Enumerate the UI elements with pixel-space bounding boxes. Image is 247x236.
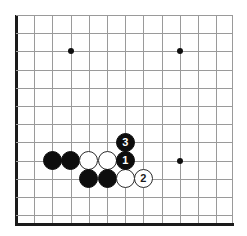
star-point-lower-right	[177, 158, 183, 164]
grid-line-horizontal-3	[16, 70, 232, 71]
stone-black-6	[79, 169, 98, 188]
grid-line-horizontal-0	[16, 15, 232, 16]
grid-line-vertical-10	[198, 15, 199, 223]
grid-line-horizontal-2	[16, 51, 232, 52]
stone-black-7	[98, 169, 117, 188]
stone-black-0	[43, 151, 62, 170]
grid-line-vertical-1	[34, 15, 35, 223]
grid-line-vertical-12	[232, 15, 233, 223]
grid-line-vertical-4	[89, 15, 90, 223]
grid-line-vertical-9	[180, 15, 181, 223]
stone-move-number: 1	[122, 155, 128, 166]
grid-line-horizontal-11	[16, 215, 232, 216]
grid-line-vertical-3	[71, 15, 72, 223]
stone-move-number: 3	[122, 136, 128, 147]
stone-black-1	[61, 151, 80, 170]
stone-white-3	[98, 151, 117, 170]
grid-line-vertical-5	[107, 15, 108, 223]
numbered-stone-3: 3	[116, 133, 135, 152]
grid-line-horizontal-6	[16, 124, 232, 125]
grid-line-vertical-6	[125, 15, 126, 223]
board-left-edge	[15, 15, 18, 226]
grid-line-horizontal-1	[16, 33, 232, 34]
grid-line-horizontal-4	[16, 88, 232, 89]
stone-white-2	[79, 151, 98, 170]
grid-line-vertical-7	[143, 15, 144, 223]
board-bottom-edge	[15, 223, 234, 226]
star-point-upper-left	[68, 48, 74, 54]
stone-move-number: 2	[140, 173, 146, 184]
grid-line-vertical-11	[216, 15, 217, 223]
grid-line-horizontal-10	[16, 197, 232, 198]
grid-line-vertical-2	[52, 15, 53, 223]
go-board-diagram: 132	[0, 0, 247, 236]
numbered-stone-1: 1	[116, 151, 135, 170]
numbered-stone-2: 2	[134, 169, 153, 188]
go-board-surface: 132	[0, 0, 247, 236]
grid-line-horizontal-5	[16, 106, 232, 107]
stone-white-8	[116, 169, 135, 188]
star-point-upper-right	[177, 48, 183, 54]
grid-line-vertical-8	[162, 15, 163, 223]
